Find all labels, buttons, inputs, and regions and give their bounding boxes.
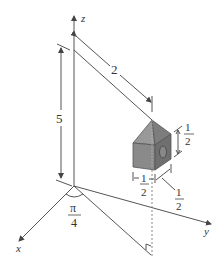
angle-numerator: π [70,201,76,215]
cube-depth-numerator: 1 [176,186,182,198]
height-label: 5 [56,111,63,126]
x-axis-label: x [15,242,21,254]
right-angle-icon [146,244,151,250]
rod [74,50,152,120]
cube-height-denominator: 2 [185,135,191,147]
cube-depth-denominator: 2 [176,200,182,212]
cube-height-numerator: 1 [185,121,191,133]
z-axis-label: z [80,12,86,24]
cube-width-denominator: 2 [141,186,147,198]
angle-arc [66,194,83,197]
cube-object [133,120,171,170]
cube-hole [160,146,167,158]
dimension-cube-height [174,126,182,157]
axes [19,16,211,255]
angle-denominator: 4 [71,216,77,230]
y-axis-label: y [203,225,209,237]
diagram: z x y 5 2 π 4 1 2 1 2 1 2 [0,0,221,268]
cube-width-numerator: 1 [141,172,147,184]
x-axis [19,186,74,241]
dimension-cube-depth [156,164,175,190]
rod-length-label: 2 [111,62,118,77]
